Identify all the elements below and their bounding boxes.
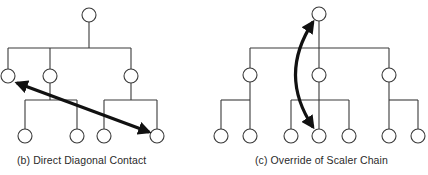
double-arrow bbox=[17, 83, 149, 132]
org-node-l2b bbox=[312, 68, 326, 82]
org-node-l2a bbox=[1, 69, 15, 83]
organization-chart-diagrams bbox=[0, 0, 428, 175]
org-node-l3f bbox=[382, 129, 396, 143]
org-node-l3g bbox=[411, 129, 425, 143]
org-node-l3d bbox=[150, 129, 164, 143]
caption-direct-diagonal-contact: (b) Direct Diagonal Contact bbox=[17, 154, 146, 166]
org-node-l2a bbox=[243, 68, 257, 82]
org-node-top bbox=[82, 8, 96, 22]
org-node-top bbox=[312, 7, 326, 21]
org-node-l3a bbox=[214, 129, 228, 143]
panel-override-scaler-chain bbox=[214, 7, 425, 143]
org-node-l3a bbox=[18, 129, 32, 143]
org-node-l2c bbox=[382, 68, 396, 82]
org-node-l3b bbox=[70, 129, 84, 143]
org-node-l2c bbox=[124, 69, 138, 83]
org-node-l3e bbox=[342, 129, 356, 143]
org-node-l3b bbox=[243, 129, 257, 143]
panel-direct-diagonal-contact bbox=[1, 8, 164, 143]
double-arrow bbox=[296, 22, 314, 127]
org-node-l3d bbox=[312, 129, 326, 143]
org-node-l2b bbox=[43, 69, 57, 83]
org-node-l3c bbox=[284, 129, 298, 143]
org-node-l3c bbox=[97, 129, 111, 143]
caption-override-scaler-chain: (c) Override of Scaler Chain bbox=[255, 154, 388, 166]
